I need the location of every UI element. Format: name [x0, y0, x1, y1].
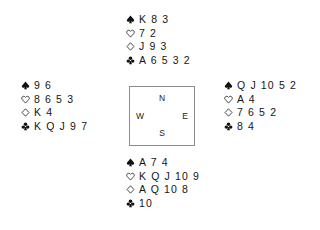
hand-west-hearts-row: 8 6 5 3 [21, 93, 88, 107]
compass-box: N W E S [129, 86, 195, 146]
hand-east-spades: Q J 10 5 2 [237, 79, 297, 93]
hand-east: Q J 10 5 2 A 4 7 6 5 2 [224, 79, 297, 133]
hand-south-hearts: K Q J 10 9 [139, 170, 200, 184]
hand-west-hearts: 8 6 5 3 [34, 93, 74, 107]
hand-west-clubs: K Q J 9 7 [34, 120, 88, 134]
hand-west-diamonds: K 4 [34, 106, 53, 120]
hand-south-spades-row: A 7 4 [126, 156, 200, 170]
hand-north-hearts: 7 2 [139, 27, 157, 41]
hand-west-clubs-row: K Q J 9 7 [21, 120, 88, 134]
hand-west-diamonds-row: K 4 [21, 106, 88, 120]
hand-west-spades-row: 9 6 [21, 79, 88, 93]
compass-east-label: E [182, 112, 188, 121]
heart-icon [224, 95, 237, 104]
hand-north-clubs: A 6 5 3 2 [139, 54, 191, 68]
club-icon [21, 122, 34, 131]
diamond-icon [126, 185, 139, 194]
heart-icon [126, 172, 139, 181]
hand-east-hearts-row: A 4 [224, 93, 297, 107]
hand-north-diamonds-row: J 9 3 [126, 40, 191, 54]
hand-east-clubs-row: 8 4 [224, 120, 297, 134]
spade-icon [224, 81, 237, 90]
hand-north-hearts-row: 7 2 [126, 27, 191, 41]
compass-west-label: W [136, 112, 144, 121]
hand-east-diamonds-row: 7 6 5 2 [224, 106, 297, 120]
hand-east-spades-row: Q J 10 5 2 [224, 79, 297, 93]
spade-icon [126, 15, 139, 24]
club-icon [126, 199, 139, 208]
heart-icon [21, 95, 34, 104]
diamond-icon [21, 108, 34, 117]
hand-south-spades: A 7 4 [139, 156, 169, 170]
compass-north-label: N [130, 94, 194, 103]
hand-west-spades: 9 6 [34, 79, 52, 93]
heart-icon [126, 29, 139, 38]
compass-south-label: S [130, 129, 194, 138]
hand-north-clubs-row: A 6 5 3 2 [126, 54, 191, 68]
bridge-deal-diagram: K 8 3 7 2 J 9 3 [0, 0, 320, 230]
diamond-icon [126, 42, 139, 51]
hand-south: A 7 4 K Q J 10 9 A Q 10 8 [126, 156, 200, 210]
hand-north-spades: K 8 3 [139, 13, 169, 27]
hand-north: K 8 3 7 2 J 9 3 [126, 13, 191, 67]
hand-south-hearts-row: K Q J 10 9 [126, 170, 200, 184]
hand-south-diamonds: A Q 10 8 [139, 183, 189, 197]
spade-icon [21, 81, 34, 90]
hand-south-clubs-row: 10 [126, 197, 200, 211]
hand-west: 9 6 8 6 5 3 K 4 [21, 79, 88, 133]
spade-icon [126, 158, 139, 167]
hand-east-clubs: 8 4 [237, 120, 255, 134]
hand-north-spades-row: K 8 3 [126, 13, 191, 27]
hand-south-diamonds-row: A Q 10 8 [126, 183, 200, 197]
hand-east-hearts: A 4 [237, 93, 256, 107]
hand-south-clubs: 10 [139, 197, 153, 211]
club-icon [126, 56, 139, 65]
diamond-icon [224, 108, 237, 117]
club-icon [224, 122, 237, 131]
hand-north-diamonds: J 9 3 [139, 40, 168, 54]
hand-east-diamonds: 7 6 5 2 [237, 106, 277, 120]
